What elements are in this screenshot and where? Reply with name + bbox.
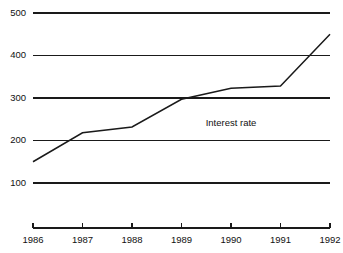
x-axis-label-1990: 1990	[220, 234, 241, 245]
x-axis-label-1992: 1992	[319, 234, 340, 245]
y-axis-tick-labels: 100200300400500	[10, 7, 26, 188]
chart-annotations: Interest rate	[206, 117, 257, 128]
chart-canvas: 100200300400500 198619871988198919901991…	[0, 0, 343, 253]
y-axis-label-400: 400	[10, 49, 26, 60]
interest-rate-line-chart: 100200300400500 198619871988198919901991…	[0, 0, 343, 253]
x-axis-label-1991: 1991	[270, 234, 291, 245]
y-axis-label-100: 100	[10, 177, 26, 188]
y-axis-label-200: 200	[10, 134, 26, 145]
annotation-interest-rate: Interest rate	[206, 117, 257, 128]
y-axis-label-500: 500	[10, 7, 26, 18]
x-axis	[33, 223, 330, 228]
x-axis-label-1988: 1988	[121, 234, 142, 245]
x-axis-label-1987: 1987	[72, 234, 93, 245]
gridlines-group	[33, 13, 330, 183]
x-axis-label-1986: 1986	[22, 234, 43, 245]
x-axis-tick-labels: 1986198719881989199019911992	[22, 234, 340, 245]
x-axis-label-1989: 1989	[171, 234, 192, 245]
y-axis-label-300: 300	[10, 92, 26, 103]
